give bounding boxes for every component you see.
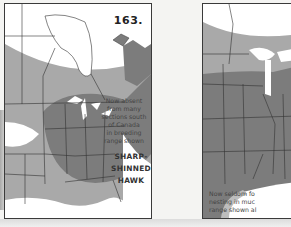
book-page: 163. Now absent from many sections south… — [0, 0, 291, 227]
note-line: nesting in muc — [209, 198, 291, 206]
note-line: Now absent — [97, 97, 151, 105]
map-graphic — [203, 4, 291, 218]
figure-number: 163. — [114, 14, 143, 27]
species-line: SHINNED — [108, 163, 152, 175]
range-map-sharp-shinned-hawk: 163. Now absent from many sections south… — [4, 3, 152, 219]
note-line: in breeding — [97, 129, 151, 137]
page-bottom-edge — [0, 219, 291, 227]
species-line: HAWK — [108, 175, 152, 187]
note-line: Now seldom fo — [209, 190, 291, 198]
range-note: Now absent from many sections south of C… — [97, 97, 151, 146]
note-line: from many — [97, 105, 151, 113]
range-map-second-species: Now seldom fo nesting in muc range shown… — [202, 3, 291, 219]
species-name: SHARP- SHINNED HAWK — [108, 151, 152, 187]
range-note: Now seldom fo nesting in muc range shown… — [209, 190, 291, 214]
species-line: SHARP- — [108, 151, 152, 163]
note-line: of Canada — [97, 121, 151, 129]
note-line: sections south — [97, 113, 151, 121]
note-line: range shown al — [209, 206, 291, 214]
note-line: range shown — [97, 137, 151, 145]
